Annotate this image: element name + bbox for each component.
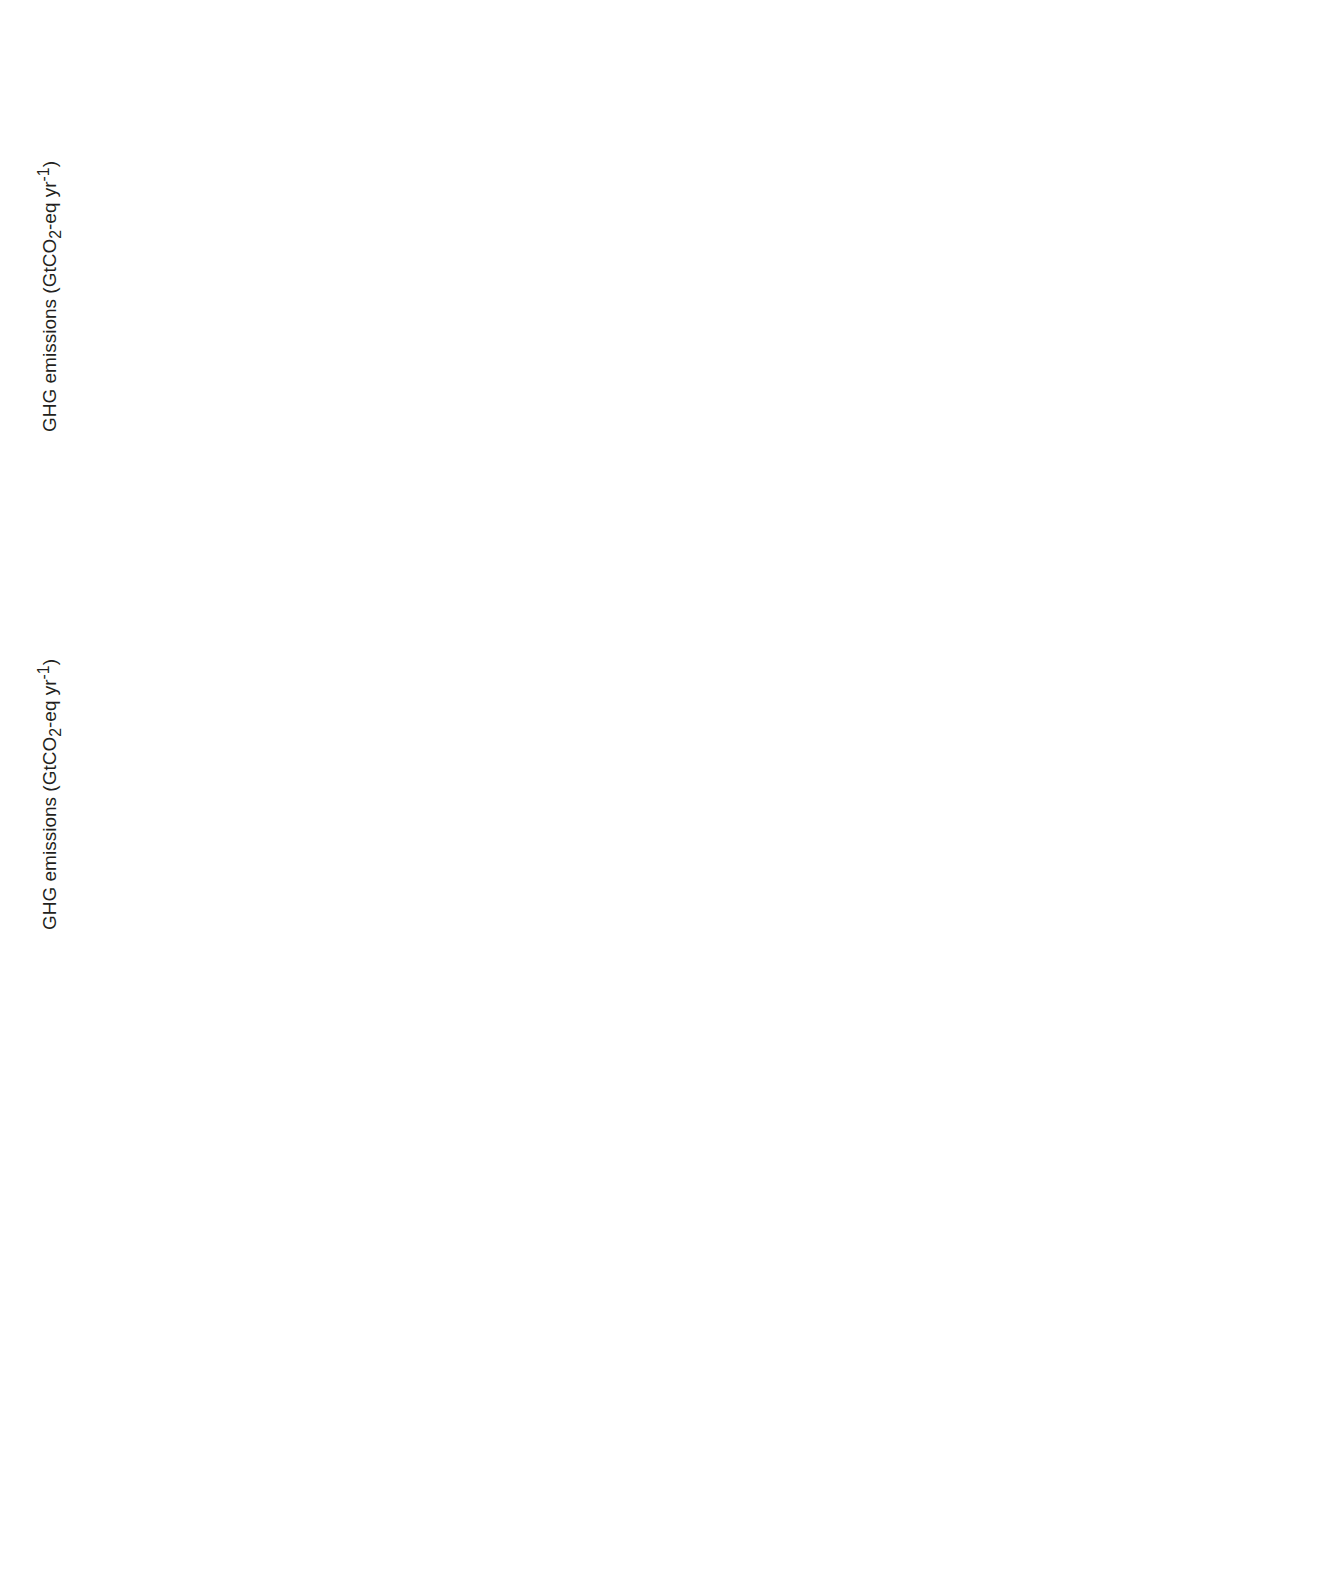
panel-d-barchart [628, 1175, 1328, 1594]
panel-b-regional-bars [58, 612, 1326, 1072]
panel-a-area-chart [60, 75, 1070, 545]
figure-root: GHG emissions (GtCO2-eq yr-1) GHG emissi… [0, 0, 1328, 1594]
panel-c-barchart [10, 1175, 700, 1594]
